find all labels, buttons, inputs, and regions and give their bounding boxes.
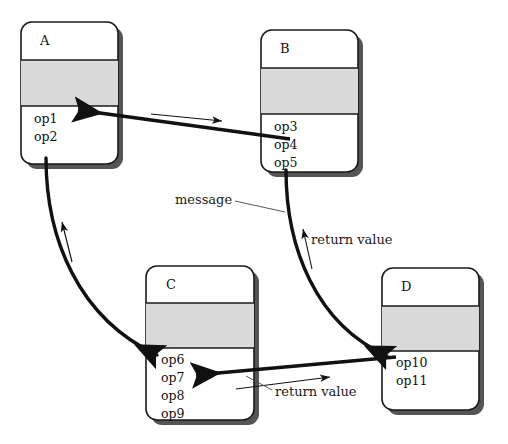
class-d-attribute-compartment: [382, 306, 479, 351]
class-b-op-1: op3: [274, 119, 298, 134]
connector-b-to-d-message[interactable]: [286, 170, 387, 356]
class-b-op-3: op5: [274, 155, 297, 170]
class-c-name: C: [166, 277, 176, 292]
class-box-d[interactable]: D op10 op11: [382, 268, 479, 410]
class-a-op-1: op1: [34, 111, 57, 126]
annotation-return-value-upper: return value: [311, 232, 393, 247]
class-c-op-4: op9: [161, 406, 185, 421]
class-d-name: D: [401, 279, 411, 294]
class-d-op-1: op10: [396, 355, 427, 370]
class-box-a[interactable]: A op1 op2: [21, 22, 118, 164]
class-a-attribute-compartment: [21, 60, 118, 106]
class-box-c[interactable]: C op6 op7 op8 op9: [146, 266, 254, 421]
class-c-op-3: op8: [161, 388, 185, 403]
class-c-op-2: op7: [161, 370, 185, 385]
class-a-name: A: [39, 33, 50, 48]
class-c-attribute-compartment: [146, 303, 254, 348]
class-b-attribute-compartment: [261, 68, 358, 114]
connector-a-to-c-message[interactable]: [46, 158, 157, 355]
diagram-canvas: A op1 op2 B op3 op4 op5 C op6 op7 op8 op…: [0, 0, 508, 444]
class-b-name: B: [280, 41, 290, 56]
annotation-message: message: [175, 192, 232, 207]
class-box-b[interactable]: B op3 op4 op5: [261, 30, 358, 172]
leader-message: [235, 201, 285, 212]
class-d-op-2: op11: [396, 373, 427, 388]
uml-collaboration-diagram: A op1 op2 B op3 op4 op5 C op6 op7 op8 op…: [0, 0, 508, 444]
class-a-op-2: op2: [34, 129, 57, 144]
annotation-return-value-lower: return value: [275, 384, 357, 399]
class-c-op-1: op6: [161, 352, 185, 367]
